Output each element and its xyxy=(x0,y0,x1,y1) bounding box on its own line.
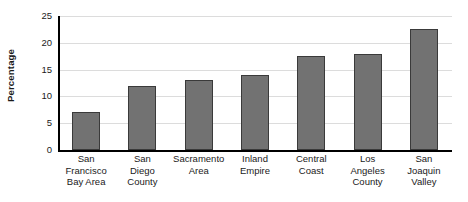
x-axis-category-label-line: Coast xyxy=(283,165,339,177)
bar xyxy=(297,56,325,150)
bar xyxy=(72,112,100,150)
x-axis-category-label-line: Central xyxy=(283,153,339,165)
x-axis-category-label-line: Angeles xyxy=(339,165,395,177)
x-axis-category-label-line: Empire xyxy=(227,165,283,177)
gridline xyxy=(60,70,452,71)
x-axis-category-label-line: County xyxy=(339,176,395,188)
x-axis-category-label-line: Joaquin xyxy=(396,165,452,177)
y-axis-title-text: Percentage xyxy=(6,48,17,101)
gridline xyxy=(60,43,452,44)
x-axis-category-label-line: Valley xyxy=(396,176,452,188)
bar-chart: Percentage 0510152025 SanFranciscoBay Ar… xyxy=(0,0,468,202)
x-axis-category-label-line: Bay Area xyxy=(58,176,114,188)
x-axis-category-label-line: County xyxy=(114,176,170,188)
x-axis-category-label-line: Francisco xyxy=(58,165,114,177)
plot-area xyxy=(58,16,452,150)
y-axis-tick-label: 15 xyxy=(30,65,52,75)
x-axis-category-label-line: Diego xyxy=(114,165,170,177)
bar xyxy=(410,29,438,150)
x-axis-category-label: SanDiegoCounty xyxy=(114,153,170,188)
bar xyxy=(354,54,382,150)
gridline xyxy=(60,16,452,17)
x-axis-category-label-line: San xyxy=(396,153,452,165)
x-axis-category-label: LosAngelesCounty xyxy=(339,153,395,188)
x-axis-category-label: SacramentoArea xyxy=(171,153,227,176)
x-axis-category-label-line: Inland xyxy=(227,153,283,165)
x-axis-category-label: InlandEmpire xyxy=(227,153,283,176)
y-axis-tick-labels: 0510152025 xyxy=(28,16,52,150)
y-axis-tick-label: 0 xyxy=(30,145,52,155)
bar xyxy=(241,75,269,150)
x-axis-category-label-line: San xyxy=(114,153,170,165)
x-axis-category-label: SanFranciscoBay Area xyxy=(58,153,114,188)
x-axis-category-label-line: Area xyxy=(171,165,227,177)
y-axis-title: Percentage xyxy=(0,0,22,150)
bar xyxy=(128,86,156,150)
y-axis-line xyxy=(58,16,60,150)
x-axis-category-label-line: Sacramento xyxy=(171,153,227,165)
y-axis-tick-label: 20 xyxy=(30,38,52,48)
x-axis-category-label-line: Los xyxy=(339,153,395,165)
x-axis-category-label-line: San xyxy=(58,153,114,165)
x-axis-category-labels: SanFranciscoBay AreaSanDiegoCountySacram… xyxy=(58,153,452,202)
x-axis-line xyxy=(58,150,452,152)
bar xyxy=(185,80,213,150)
x-axis-category-label: CentralCoast xyxy=(283,153,339,176)
y-axis-tick-label: 5 xyxy=(30,118,52,128)
x-axis-category-label: SanJoaquinValley xyxy=(396,153,452,188)
y-axis-tick-label: 10 xyxy=(30,92,52,102)
y-axis-tick-label: 25 xyxy=(30,11,52,21)
